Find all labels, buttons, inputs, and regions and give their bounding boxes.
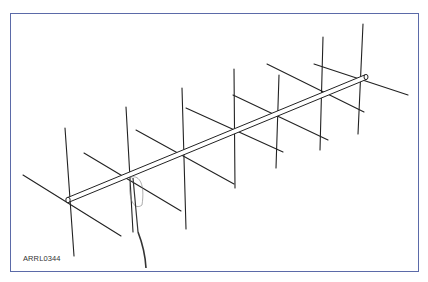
- coax-cable: [138, 232, 146, 268]
- figure-label: ARRL0344: [23, 254, 61, 263]
- yagi-antenna-diagram: [0, 0, 428, 282]
- vertical-element-3: [182, 88, 186, 229]
- antenna-boom: [66, 74, 368, 202]
- vertical-element-2: [126, 107, 133, 232]
- vertical-element-5: [276, 75, 279, 168]
- feed-lead: [133, 178, 138, 232]
- boom-end-cap: [364, 74, 368, 79]
- horizontal-element-5: [233, 95, 328, 140]
- boom-end-cap: [66, 197, 70, 203]
- horizontal-element-6: [267, 64, 364, 112]
- vertical-element-1: [65, 128, 74, 256]
